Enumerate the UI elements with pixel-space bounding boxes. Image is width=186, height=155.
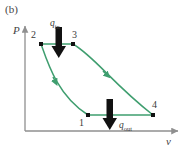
state-point-1	[86, 113, 90, 117]
process-2-1-compression	[41, 44, 88, 115]
state-point-3	[71, 42, 75, 46]
state-label-3: 3	[72, 30, 77, 40]
state-label-4: 4	[152, 100, 157, 110]
figure-panel: (b) P v 2 3 1 4 qin qout	[0, 0, 186, 155]
pv-diagram	[0, 0, 186, 155]
q-out-subscript: out	[124, 125, 132, 132]
q-in-subscript: in	[55, 23, 60, 30]
state-label-2: 2	[31, 30, 36, 40]
state-label-1: 1	[79, 118, 84, 128]
state-point-2	[39, 42, 43, 46]
q-in-arrow	[52, 27, 67, 58]
heat-arrows	[52, 27, 118, 130]
q-in-label: qin	[50, 19, 60, 29]
x-axis-label: v	[166, 136, 171, 147]
state-point-4	[151, 113, 155, 117]
y-axis-label: P	[13, 25, 20, 36]
panel-label: (b)	[5, 4, 18, 15]
q-out-label: qout	[119, 121, 132, 131]
flow-direction-markers	[53, 71, 108, 83]
